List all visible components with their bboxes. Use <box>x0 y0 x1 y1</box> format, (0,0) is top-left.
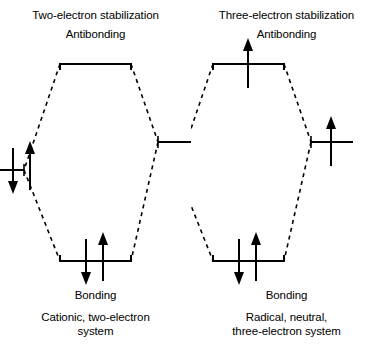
electron-pair-left-atomic <box>8 141 35 194</box>
electron-up-arrow-head <box>326 116 336 129</box>
electron-pair-bonding <box>234 232 261 285</box>
correlation-line-left-antibonding <box>191 64 213 170</box>
correlation-line-left-bonding <box>191 170 213 261</box>
bonding-label: Bonding <box>191 288 382 302</box>
panel-caption-line2: system <box>78 325 114 337</box>
electron-pair-bonding <box>81 232 108 285</box>
level-antibonding <box>60 64 131 70</box>
panel-caption-line2: three-electron system <box>232 325 340 337</box>
panel-two-electron: Two-electron stabilization Antibonding <box>0 0 191 346</box>
electron-down-arrow-head <box>8 181 18 194</box>
level-bonding <box>60 255 131 261</box>
panel-caption: Radical, neutral, three-electron system <box>191 310 382 338</box>
panel-caption-line1: Radical, neutral, <box>246 311 327 323</box>
panel-three-electron: Three-electron stabilization Antibonding <box>191 0 382 346</box>
panel-caption-line1: Cationic, two-electron <box>41 311 149 323</box>
correlation-line-right-bonding <box>131 142 158 261</box>
correlation-line-right-antibonding <box>131 64 158 142</box>
bonding-label: Bonding <box>0 288 191 302</box>
electron-down-arrow-head <box>234 272 244 285</box>
electron-up-arrow-head <box>243 38 253 51</box>
electron-up-arrow-head <box>98 232 108 245</box>
correlation-line-right-bonding <box>284 142 311 261</box>
electron-up-arrow-head <box>251 232 261 245</box>
panel-caption: Cationic, two-electron system <box>0 310 191 338</box>
electron-down-arrow-head <box>81 272 91 285</box>
correlation-line-right-antibonding <box>284 64 311 142</box>
level-bonding <box>213 255 284 261</box>
